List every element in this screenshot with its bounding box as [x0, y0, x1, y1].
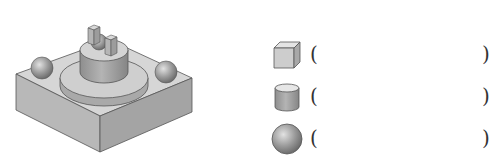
question-row-cylinder: ( ) — [270, 80, 495, 114]
question-row-sphere: ( ) — [270, 122, 495, 156]
sphere-left — [31, 57, 53, 79]
answer-blank-sphere[interactable] — [326, 125, 476, 151]
close-paren: ) — [482, 125, 490, 151]
close-paren: ) — [482, 41, 490, 67]
composite-solid-figure — [0, 0, 220, 166]
cylinder-icon — [270, 80, 304, 114]
question-row-cube: ( ) — [270, 38, 495, 72]
sphere-right — [155, 61, 177, 83]
open-paren: ( — [310, 125, 318, 151]
small-cuboid-2 — [105, 35, 117, 56]
open-paren: ( — [310, 83, 318, 109]
cube-icon — [270, 38, 304, 72]
close-paren: ) — [482, 83, 490, 109]
sphere-icon — [270, 122, 304, 156]
open-paren: ( — [310, 41, 318, 67]
small-cuboid-1 — [88, 25, 100, 45]
answer-blank-cylinder[interactable] — [326, 83, 476, 109]
answer-blank-cube[interactable] — [326, 41, 476, 67]
